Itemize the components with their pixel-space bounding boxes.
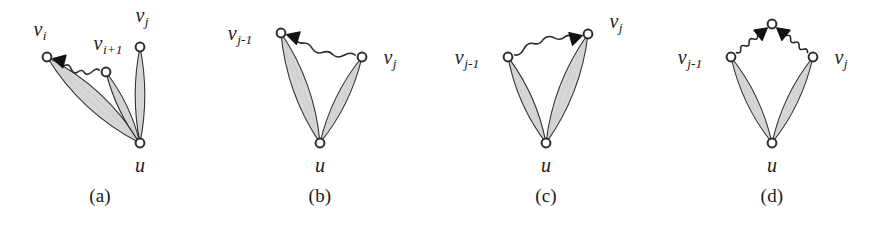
vertex-v_j-1[interactable] bbox=[504, 53, 513, 62]
edge-lens bbox=[320, 57, 362, 143]
panel-d: vj-1vju bbox=[678, 20, 848, 176]
vertex-v_j[interactable] bbox=[584, 30, 593, 39]
figure-container: vivi+1vjuvj-1vjuvj-1vjuvj-1vju (a) (b) (… bbox=[0, 0, 880, 225]
wavy-edge bbox=[293, 37, 355, 57]
edge-lens bbox=[546, 34, 588, 143]
vertex-label-u: u bbox=[541, 154, 551, 176]
edge-lens bbox=[731, 57, 772, 143]
vertex-u[interactable] bbox=[542, 139, 551, 148]
arrowhead bbox=[777, 28, 790, 41]
edge-lens bbox=[135, 47, 145, 143]
vertex-label-v_j: vj bbox=[383, 46, 396, 71]
vertex-label-v_j: vj bbox=[834, 46, 847, 71]
vertex-label-v_j: vj bbox=[609, 10, 622, 35]
vertex-label-u: u bbox=[767, 154, 777, 176]
vertex-label-u: u bbox=[315, 154, 325, 176]
edge-lens bbox=[281, 33, 320, 143]
panel-c: vj-1vju bbox=[455, 10, 623, 176]
vertex-v_j[interactable] bbox=[136, 43, 145, 52]
vertex-v_j-1[interactable] bbox=[277, 29, 286, 38]
vertex-top[interactable] bbox=[768, 20, 777, 29]
vertex-v_i[interactable] bbox=[43, 53, 52, 62]
panel-caption-c: (c) bbox=[486, 185, 606, 207]
panel-caption-d: (d) bbox=[712, 185, 832, 207]
panel-caption-a: (a) bbox=[40, 185, 160, 207]
vertex-label-u: u bbox=[135, 154, 145, 176]
vertex-v_j[interactable] bbox=[358, 53, 367, 62]
vertex-label-v_j: vj bbox=[135, 4, 148, 29]
vertex-u[interactable] bbox=[768, 139, 777, 148]
vertex-label-v_i: vi bbox=[33, 18, 46, 43]
vertex-u[interactable] bbox=[316, 139, 325, 148]
vertex-label-v_j-1: vj-1 bbox=[228, 22, 252, 47]
edge-bundle-c-1 bbox=[546, 34, 588, 143]
wavy-edge bbox=[515, 35, 576, 55]
arrowhead bbox=[569, 33, 582, 46]
edge-bundle-c-0 bbox=[508, 57, 546, 143]
vertex-v_j-1[interactable] bbox=[727, 53, 736, 62]
panel-b: vj-1vju bbox=[228, 22, 397, 176]
edge-bundle-b-1 bbox=[320, 57, 362, 143]
edge-bundle-a-2 bbox=[135, 47, 145, 143]
edge-bundle-d-1 bbox=[772, 57, 813, 143]
edge-lens bbox=[772, 57, 813, 143]
vertex-label-v_i+1: vi+1 bbox=[93, 32, 122, 57]
edge-bundle-d-0 bbox=[731, 57, 772, 143]
vertex-v_j[interactable] bbox=[809, 53, 818, 62]
edge-lens bbox=[508, 57, 546, 143]
vertex-label-v_j-1: vj-1 bbox=[455, 46, 479, 71]
vertex-v_i+1[interactable] bbox=[102, 68, 111, 77]
panel-a: vivi+1vju bbox=[33, 4, 148, 176]
vertex-label-v_j-1: vj-1 bbox=[678, 46, 702, 71]
edge-bundle-b-0 bbox=[281, 33, 320, 143]
panel-caption-b: (b) bbox=[260, 185, 380, 207]
vertex-u[interactable] bbox=[136, 139, 145, 148]
